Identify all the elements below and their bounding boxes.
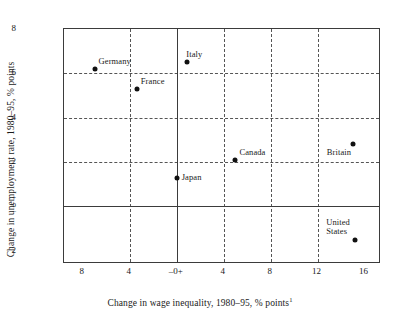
data-point-label: France: [141, 77, 165, 87]
x-axis-title: Change in wage inequality, 1980–95, % po…: [0, 296, 400, 308]
data-point-label: Italy: [186, 50, 202, 60]
y-tick-label: 2: [0, 156, 16, 166]
x-axis-footnote-marker: 1: [289, 296, 292, 303]
x-tick-label: –0+: [169, 266, 183, 276]
gridline-horizontal: [64, 118, 379, 119]
gridline-vertical: [224, 29, 225, 262]
zero-axis-horizontal: [64, 206, 379, 207]
y-tick-label-zero: +0–: [0, 196, 16, 215]
data-point-label: Britain: [327, 148, 351, 158]
zero-axis-vertical: [177, 29, 178, 262]
data-point-label: Japan: [182, 173, 202, 183]
data-point-label: United States: [326, 218, 350, 237]
y-tick-label: 2: [0, 245, 16, 255]
x-tick-label: 4: [220, 266, 225, 276]
data-point-label: Canada: [239, 148, 265, 158]
y-zero-marker-minus: –: [0, 209, 16, 215]
data-point[interactable]: [92, 66, 97, 71]
gridline-vertical: [318, 29, 319, 262]
data-point[interactable]: [233, 157, 238, 162]
data-point-label: Germany: [99, 57, 131, 67]
data-point[interactable]: [134, 86, 139, 91]
gridline-horizontal: [64, 73, 379, 74]
x-tick-label: 16: [359, 266, 368, 276]
plot-frame: GermanyFranceItalyJapanCanadaBritainUnit…: [63, 28, 380, 263]
plot-area: GermanyFranceItalyJapanCanadaBritainUnit…: [64, 29, 379, 262]
gridline-vertical: [271, 29, 272, 262]
y-tick-label: 4: [0, 112, 16, 122]
data-point[interactable]: [174, 175, 179, 180]
x-tick-label: 8: [267, 266, 272, 276]
x-tick-label: 8: [80, 266, 85, 276]
data-point[interactable]: [350, 142, 355, 147]
y-tick-label: 8: [0, 23, 16, 33]
gridline-horizontal: [64, 162, 379, 163]
x-axis-title-text: Change in wage inequality, 1980–95, % po…: [108, 298, 290, 308]
x-tick-label: 4: [126, 266, 131, 276]
data-point[interactable]: [185, 60, 190, 65]
scatter-chart-figure: Change in unemployment rate, 1980–95, % …: [0, 0, 400, 319]
y-tick-label: 6: [0, 67, 16, 77]
x-tick-label: 12: [312, 266, 321, 276]
data-point[interactable]: [353, 237, 358, 242]
